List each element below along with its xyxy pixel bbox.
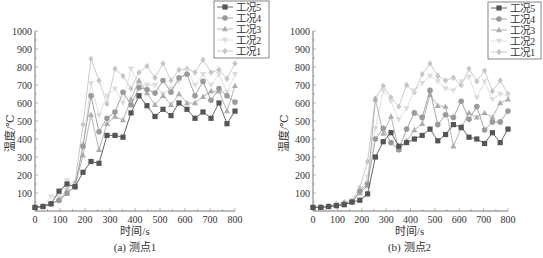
y-tick-label: 700 <box>17 80 32 91</box>
data-point-marker <box>104 101 109 107</box>
series-工况4 <box>310 88 511 211</box>
data-point-marker <box>208 83 214 88</box>
series-工况5 <box>32 93 237 210</box>
y-tick-label: 1000 <box>12 26 32 37</box>
data-point-marker <box>326 204 331 209</box>
data-point-marker <box>96 113 102 118</box>
data-point-marker <box>482 110 488 115</box>
data-point-marker <box>168 89 174 95</box>
data-point-marker <box>56 197 62 203</box>
data-point-marker <box>419 121 425 126</box>
data-point-marker <box>40 204 45 209</box>
data-point-marker <box>318 205 323 210</box>
y-axis-label: 温度/℃ <box>277 114 290 151</box>
axes: 1002003004005006007008009001000010020030… <box>3 26 243 226</box>
data-point-marker <box>192 93 198 99</box>
data-point-marker <box>232 72 238 77</box>
data-point-marker <box>490 119 496 125</box>
legend: 工况5工况4工况3工况2工况1 <box>488 2 541 59</box>
x-axis-label-a: 时间/s <box>0 222 270 238</box>
data-point-marker <box>427 88 433 94</box>
legend-label: 工况4 <box>510 14 536 25</box>
data-point-marker <box>224 108 230 113</box>
y-tick-label: 500 <box>17 116 32 127</box>
data-point-marker <box>411 127 417 132</box>
line-chart-a: 1002003004005006007008009001000010020030… <box>0 0 272 258</box>
y-tick-label: 900 <box>295 44 310 55</box>
chart-caption-b: (b) 测点2 <box>272 238 543 254</box>
data-point-marker <box>176 91 182 96</box>
data-point-marker <box>489 114 495 119</box>
data-point-marker <box>435 122 441 128</box>
data-point-marker <box>450 88 456 93</box>
y-tick-label: 500 <box>295 116 310 127</box>
series-工况2 <box>310 74 511 211</box>
data-point-marker <box>96 129 102 135</box>
data-point-marker <box>496 16 502 22</box>
data-point-marker <box>88 81 94 86</box>
data-point-marker <box>160 78 166 84</box>
data-point-marker <box>232 60 237 66</box>
data-point-marker <box>88 112 94 117</box>
data-point-marker <box>120 89 126 95</box>
data-point-marker <box>443 77 448 83</box>
data-point-marker <box>200 109 205 114</box>
data-point-marker <box>136 85 142 91</box>
axes: 1002003004005006007008009001000010020030… <box>277 26 516 226</box>
data-point-marker <box>482 127 488 133</box>
data-point-marker <box>232 109 237 114</box>
data-point-marker <box>404 126 410 132</box>
y-tick-label: 200 <box>295 170 310 181</box>
data-point-marker <box>505 96 511 101</box>
legend-label: 工况3 <box>510 25 535 36</box>
data-point-marker <box>200 79 206 85</box>
data-point-marker <box>112 133 117 138</box>
data-point-marker <box>48 201 53 206</box>
data-point-marker <box>152 114 157 119</box>
data-point-marker <box>388 130 393 135</box>
y-tick-label: 100 <box>17 188 32 199</box>
data-point-marker <box>497 119 503 125</box>
data-point-marker <box>88 93 94 99</box>
data-point-marker <box>412 110 418 116</box>
x-axis-label-b: 时间/s <box>272 222 543 238</box>
y-tick-label: 100 <box>295 188 310 199</box>
data-point-marker <box>112 109 118 115</box>
data-point-marker <box>388 113 394 118</box>
data-point-marker <box>412 136 417 141</box>
data-point-marker <box>96 77 101 83</box>
data-point-marker <box>349 199 354 204</box>
data-point-marker <box>342 202 347 207</box>
data-point-marker <box>128 67 134 72</box>
data-point-marker <box>32 205 37 210</box>
data-point-marker <box>136 69 141 75</box>
data-point-marker <box>184 107 189 112</box>
data-point-marker <box>451 122 456 127</box>
data-point-marker <box>128 102 134 108</box>
y-tick-label: 300 <box>17 152 32 163</box>
data-point-marker <box>490 130 495 135</box>
data-point-marker <box>80 143 86 149</box>
data-point-marker <box>357 188 363 194</box>
data-point-marker <box>72 184 77 189</box>
data-point-marker <box>419 115 425 121</box>
y-tick-label: 1000 <box>290 26 310 37</box>
legend-label: 工况5 <box>510 3 535 14</box>
data-point-marker <box>168 113 173 118</box>
y-tick-label: 700 <box>295 80 310 91</box>
data-point-marker <box>450 143 456 148</box>
data-point-marker <box>144 87 150 93</box>
data-point-marker <box>505 127 510 132</box>
data-point-marker <box>208 116 213 121</box>
data-point-marker <box>435 138 440 143</box>
data-point-marker <box>451 115 457 121</box>
y-tick-label: 800 <box>17 62 32 73</box>
y-tick-label: 400 <box>295 134 310 145</box>
y-tick-label: 400 <box>17 134 32 145</box>
y-tick-label: 600 <box>295 98 310 109</box>
data-point-marker <box>160 107 165 112</box>
data-point-marker <box>232 83 238 88</box>
data-point-marker <box>388 99 394 104</box>
data-point-marker <box>80 170 85 175</box>
data-point-marker <box>200 94 206 99</box>
